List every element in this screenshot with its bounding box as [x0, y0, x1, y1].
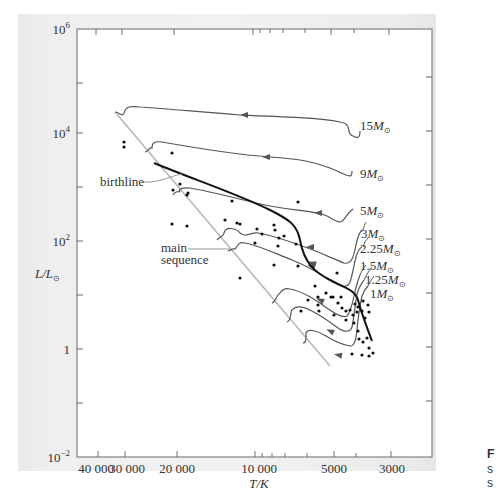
x-tick-label: 30 000: [109, 461, 145, 476]
y-tick-exp: −2: [60, 448, 70, 458]
y-tick-label: 10: [47, 450, 60, 465]
y-tick-label: 10: [53, 126, 66, 141]
y-tick-exp: 6: [66, 20, 71, 30]
y-tick-exp: 2: [66, 232, 71, 242]
svg-text:106: 106: [53, 20, 71, 37]
hr-diagram: 106 104 102 1 10−2 40 000 30 000 20 000 …: [0, 0, 497, 502]
y-tick-labels: 106 104 102 1 10−2: [47, 20, 70, 465]
svg-text:104: 104: [53, 124, 71, 141]
y-tick-label: 10: [53, 22, 66, 37]
caption-fragment-line1: F: [487, 447, 494, 461]
x-tick-label: 3000: [379, 461, 405, 476]
caption-fragment-line3: s: [487, 476, 493, 490]
x-tick-label: 20 000: [159, 461, 195, 476]
caption-fragment-line2: s: [487, 462, 493, 476]
x-tick-labels: 40 000 30 000 20 000 10 000 5000 3000: [78, 461, 405, 476]
main-sequence-label-line2: sequence: [161, 252, 209, 267]
y-tick-label: 10: [53, 234, 66, 249]
x-tick-label: 10 000: [241, 461, 277, 476]
svg-text:10−2: 10−2: [47, 448, 70, 465]
y-tick-label: 1: [64, 342, 71, 357]
svg-text:102: 102: [53, 232, 71, 249]
svg-text:1: 1: [64, 342, 71, 357]
y-axis-title: L/L⊙: [34, 266, 60, 283]
birthline-label: birthline: [100, 174, 144, 189]
y-tick-exp: 4: [66, 124, 71, 134]
x-axis-title: T/K: [249, 476, 270, 491]
x-tick-label: 5000: [321, 461, 347, 476]
